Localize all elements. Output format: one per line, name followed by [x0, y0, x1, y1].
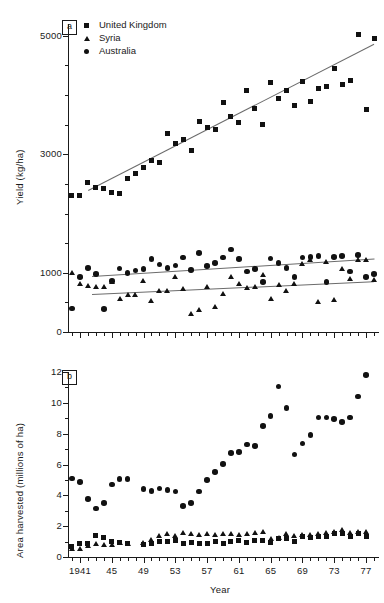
- x-tick-major: [144, 333, 145, 338]
- y-tick-label: 12: [20, 366, 62, 377]
- data-point-triangle: [77, 281, 83, 286]
- x-tick-minor: [358, 558, 359, 561]
- x-tick-minor: [159, 558, 160, 561]
- x-tick-minor: [104, 558, 105, 561]
- data-point-square: [276, 96, 281, 101]
- data-point-square: [300, 79, 305, 84]
- data-point-circle: [212, 260, 218, 266]
- data-point-square: [340, 82, 345, 87]
- data-point-circle: [244, 269, 250, 275]
- x-tick-major: [112, 333, 113, 338]
- data-point-square: [276, 536, 281, 541]
- data-point-triangle: [228, 531, 234, 536]
- data-point-triangle: [371, 277, 377, 282]
- x-tick-minor: [72, 333, 73, 336]
- data-point-triangle: [172, 533, 178, 538]
- data-point-triangle: [212, 304, 218, 309]
- data-point-triangle: [77, 546, 83, 551]
- data-point-square: [340, 531, 345, 536]
- data-point-triangle: [291, 281, 297, 286]
- data-point-square: [268, 540, 273, 545]
- x-tick-major: [334, 333, 335, 338]
- data-point-square: [149, 541, 154, 546]
- data-point-circle: [236, 449, 242, 455]
- data-point-circle: [69, 476, 75, 482]
- data-point-circle: [236, 256, 242, 262]
- x-tick-major: [366, 333, 367, 338]
- data-point-square: [85, 541, 90, 546]
- y-tick-major: [63, 36, 68, 37]
- x-tick-minor: [318, 333, 319, 336]
- x-tick-minor: [350, 333, 351, 336]
- data-point-square: [101, 535, 106, 540]
- data-point-triangle: [291, 533, 297, 538]
- data-point-square: [221, 100, 226, 105]
- data-point-square: [324, 84, 329, 89]
- data-point-triangle: [132, 292, 138, 297]
- data-point-square: [205, 125, 210, 130]
- data-point-circle: [117, 476, 123, 482]
- x-tick-minor: [215, 333, 216, 336]
- data-point-square: [125, 541, 130, 546]
- y-tick-label: 2: [20, 520, 62, 531]
- data-point-triangle: [204, 284, 210, 289]
- data-point-triangle: [156, 288, 162, 293]
- x-tick-minor: [326, 558, 327, 561]
- data-point-triangle: [283, 288, 289, 293]
- data-point-square: [165, 131, 170, 136]
- x-tick-minor: [295, 558, 296, 561]
- data-point-circle: [93, 271, 99, 277]
- y-tick-minor: [65, 95, 68, 96]
- y-tick-label: 10: [20, 397, 62, 408]
- x-tick-minor: [287, 333, 288, 336]
- y-tick-label: 0: [20, 326, 62, 337]
- x-tick-major: [112, 558, 113, 563]
- data-point-square: [173, 141, 178, 146]
- x-tick-minor: [151, 333, 152, 336]
- x-tick-minor: [120, 333, 121, 336]
- data-point-square: [316, 86, 321, 91]
- data-point-square: [117, 540, 122, 545]
- data-point-triangle: [125, 292, 131, 297]
- data-point-circle: [260, 423, 266, 429]
- x-tick-minor: [231, 333, 232, 336]
- data-point-square: [157, 539, 162, 544]
- data-point-circle: [220, 461, 226, 467]
- x-tick-major: [175, 558, 176, 563]
- y-axis-line: [68, 372, 69, 558]
- data-point-triangle: [164, 531, 170, 536]
- data-point-triangle: [276, 282, 282, 287]
- x-tick-minor: [374, 558, 375, 561]
- data-point-square: [244, 540, 249, 545]
- data-point-circle: [188, 267, 194, 273]
- data-point-square: [69, 193, 74, 198]
- x-tick-minor: [295, 333, 296, 336]
- y-tick-label: 3000: [20, 148, 62, 159]
- data-point-circle: [141, 486, 147, 492]
- data-point-circle: [85, 265, 91, 271]
- x-tick-major: [366, 558, 367, 563]
- x-tick-minor: [72, 558, 73, 561]
- data-point-triangle: [180, 286, 186, 291]
- data-point-circle: [347, 415, 353, 421]
- data-point-triangle: [363, 257, 369, 262]
- data-point-square: [260, 122, 265, 127]
- x-tick-minor: [199, 333, 200, 336]
- x-tick-minor: [263, 558, 264, 561]
- x-tick-label: 77: [346, 565, 384, 576]
- panel-a: a United Kingdom Syria Australia Yield (…: [0, 0, 384, 350]
- data-point-square: [117, 191, 122, 196]
- data-point-square: [364, 107, 369, 112]
- y-tick-major: [63, 372, 68, 373]
- data-point-circle: [324, 279, 330, 285]
- data-point-circle: [244, 442, 250, 448]
- data-point-circle: [180, 255, 186, 261]
- data-point-triangle: [148, 298, 154, 303]
- data-point-circle: [284, 265, 290, 271]
- data-point-square: [157, 160, 162, 165]
- x-tick-minor: [255, 333, 256, 336]
- data-point-circle: [331, 416, 337, 422]
- data-point-triangle: [220, 291, 226, 296]
- data-point-circle: [355, 394, 361, 400]
- y-tick-major: [63, 403, 68, 404]
